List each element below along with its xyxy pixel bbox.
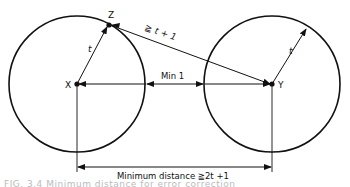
label-z: Z (108, 10, 114, 20)
radius-right-arrow (272, 29, 306, 84)
point-z (106, 22, 111, 27)
point-y (269, 81, 274, 86)
label-y: Y (277, 80, 284, 90)
label-radius-right: t (289, 46, 293, 56)
error-correction-diagram: X Y Z t t ≧ t + 1 Min 1 Minimum distance… (0, 0, 350, 187)
radius-left-arrow (77, 27, 107, 84)
label-gap: Min 1 (161, 71, 184, 81)
figure-caption: FIG. 3.4 Minimum distance for error corr… (4, 179, 235, 187)
label-radius-left: t (88, 44, 92, 54)
zy-line (110, 25, 270, 84)
point-x (74, 81, 79, 86)
label-x: X (65, 80, 71, 90)
